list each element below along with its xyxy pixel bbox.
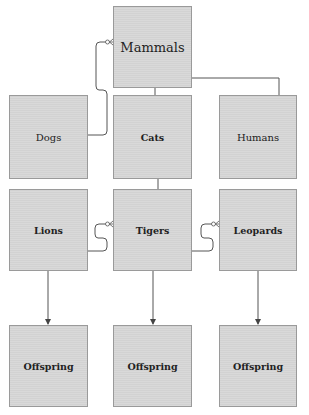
- node-label: Dogs: [36, 132, 62, 143]
- node-leopards[interactable]: Leopards: [219, 189, 297, 271]
- node-mammals[interactable]: Mammals: [113, 6, 192, 88]
- node-label: Offspring: [127, 361, 177, 372]
- node-label: Lions: [34, 225, 63, 236]
- node-lions[interactable]: Lions: [9, 189, 88, 271]
- node-label: Offspring: [23, 361, 73, 372]
- node-label: Tigers: [136, 225, 170, 236]
- edge-lions-tigers: [88, 221, 113, 251]
- edge-dogs-mammals: [88, 39, 113, 135]
- node-label: Humans: [237, 132, 279, 143]
- node-label: Mammals: [120, 40, 184, 55]
- node-label: Leopards: [234, 225, 283, 236]
- node-cats[interactable]: Cats: [113, 95, 192, 179]
- node-offspring-leopards[interactable]: Offspring: [219, 325, 297, 407]
- node-tigers[interactable]: Tigers: [113, 189, 192, 271]
- node-dogs[interactable]: Dogs: [9, 95, 88, 179]
- node-humans[interactable]: Humans: [219, 95, 297, 179]
- node-label: Cats: [141, 132, 164, 143]
- node-offspring-tigers[interactable]: Offspring: [113, 325, 192, 407]
- node-label: Offspring: [233, 361, 283, 372]
- node-offspring-lions[interactable]: Offspring: [9, 325, 88, 407]
- edge-tigers-leopards: [192, 221, 219, 251]
- diagram-canvas: Mammals Dogs Cats Humans Lions Tigers Le…: [0, 0, 309, 415]
